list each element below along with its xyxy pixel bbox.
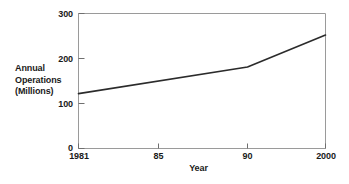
y-axis-label: Annual Operations (Millions): [15, 63, 62, 98]
y-axis-label-line-1: Annual: [15, 63, 62, 75]
x-tick-label-85: 85: [146, 151, 171, 161]
x-axis-label-wrap: Year: [0, 163, 349, 173]
y-tick-label-300: 300: [47, 9, 73, 19]
y-axis-label-line-3: (Millions): [15, 86, 62, 98]
y-axis-label-line-2: Operations: [15, 75, 62, 87]
x-tick-label-2000: 2000: [311, 151, 341, 161]
y-tick-label-100: 100: [47, 99, 73, 109]
x-tick-label-1981: 1981: [64, 151, 94, 161]
x-axis-label: Year: [189, 163, 208, 173]
x-tick-label-90: 90: [235, 151, 260, 161]
